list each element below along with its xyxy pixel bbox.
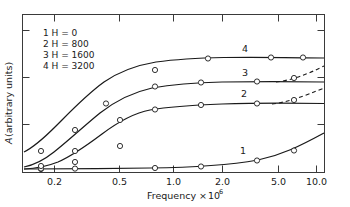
x-axis-title-exponent: 6	[219, 188, 223, 196]
data-point	[152, 67, 157, 72]
dashed-branch-series-3	[276, 66, 324, 82]
curve-series-1	[24, 133, 324, 169]
curves-group	[24, 57, 324, 169]
data-point	[38, 148, 43, 153]
x-tick-label: 0.2	[47, 176, 62, 187]
curve-labels-group: 1 2 3 4	[240, 43, 248, 156]
curve-label-3: 3	[242, 67, 248, 78]
data-point	[117, 117, 122, 122]
x-tick-label: 2.0	[215, 176, 230, 187]
x-axis-title-word: Frequency	[147, 190, 196, 201]
y-axis-ticks-right	[318, 31, 325, 125]
y-axis-title-units: (arbitrary units)	[3, 62, 14, 137]
curve-label-4: 4	[242, 43, 248, 54]
data-point	[198, 102, 203, 107]
data-points-group	[38, 55, 305, 172]
data-point	[291, 97, 296, 102]
x-tick-label: 1.0	[166, 176, 181, 187]
curve-series-4	[24, 57, 324, 152]
x-axis-ticks-top	[55, 15, 317, 22]
data-point	[72, 166, 77, 171]
figure-container: 0.2 0.5 1.0 2.0 5.0 10.0 Frequency × 10 …	[0, 0, 350, 207]
curve-label-1: 1	[240, 145, 246, 156]
data-point	[254, 79, 259, 84]
data-point	[72, 148, 77, 153]
curve-label-2: 2	[241, 88, 247, 99]
x-tick-labels: 0.2 0.5 1.0 2.0 5.0 10.0	[47, 176, 327, 187]
x-tick-label: 0.5	[112, 176, 127, 187]
data-point	[72, 159, 77, 164]
x-tick-label: 10.0	[306, 176, 327, 187]
data-point	[254, 158, 259, 163]
data-point	[152, 165, 157, 170]
data-point	[291, 75, 296, 80]
legend: 1 H = 0 2 H = 800 3 H = 1600 4 H = 3200	[43, 28, 95, 71]
data-point	[152, 84, 157, 89]
y-axis-ticks-left	[23, 31, 30, 125]
y-axis-title: A (arbitrary units)	[3, 62, 14, 145]
data-point	[103, 101, 108, 106]
dashed-branches-group	[272, 66, 324, 104]
x-axis-title-times: ×	[199, 190, 207, 201]
data-point	[254, 101, 259, 106]
legend-item-1: 1 H = 0	[43, 28, 78, 38]
data-point	[152, 107, 157, 112]
dashed-branch-series-2	[272, 88, 324, 104]
y-axis-title-symbol: A	[3, 138, 14, 146]
data-point	[38, 163, 43, 168]
data-point	[291, 148, 296, 153]
data-point	[72, 127, 77, 132]
x-axis-title: Frequency × 10 6	[147, 188, 223, 201]
data-point	[268, 55, 273, 60]
data-point	[198, 80, 203, 85]
line-chart: 0.2 0.5 1.0 2.0 5.0 10.0 Frequency × 10 …	[0, 0, 350, 207]
data-points-series-3	[38, 75, 296, 168]
data-point	[300, 55, 305, 60]
x-tick-label: 5.0	[271, 176, 286, 187]
legend-item-3: 3 H = 1600	[43, 50, 95, 60]
data-point	[198, 164, 203, 169]
data-point	[205, 56, 210, 61]
legend-item-4: 4 H = 3200	[43, 61, 95, 71]
data-point	[117, 143, 122, 148]
legend-item-2: 2 H = 800	[43, 39, 89, 49]
